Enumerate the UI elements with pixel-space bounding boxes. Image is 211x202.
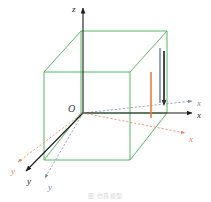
- y-axis-orange: [18, 113, 83, 162]
- coordinate-system-diagram: z x x x y y y O: [0, 0, 211, 202]
- origin-label: O: [68, 103, 75, 114]
- x-axis-orange: [83, 113, 185, 133]
- figure-caption: 图 仿真模型: [0, 191, 211, 200]
- x-axis-blue-label: x: [196, 98, 201, 108]
- wireframe-cube: [44, 31, 167, 160]
- x-axis-orange-label: x: [188, 134, 193, 144]
- y-axis-orange-label: y: [10, 166, 15, 176]
- x-axis-black-label: x: [196, 110, 201, 120]
- bar-dark-arrowhead: [162, 100, 167, 106]
- y-axis-black-label: y: [26, 176, 31, 186]
- figure-container: z x x x y y y O: [0, 0, 211, 202]
- cube-front-face: [44, 72, 130, 160]
- z-axis-label: z: [71, 4, 76, 14]
- x-axis-blue: [83, 101, 192, 113]
- cube-connecting-edges: [44, 31, 167, 160]
